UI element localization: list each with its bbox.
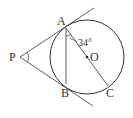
angle-label: 34°	[78, 37, 92, 48]
angle-arc-a	[66, 35, 71, 37]
label-p: P	[9, 50, 16, 64]
label-o: O	[90, 50, 99, 64]
label-a: A	[57, 14, 66, 28]
geometry-diagram: A P B C O 34°	[0, 0, 133, 118]
tangent-line-pb	[20, 57, 93, 106]
label-b: B	[61, 86, 69, 100]
angle-arc-p	[27, 52, 29, 62]
center-dot-o	[86, 56, 89, 59]
label-c: C	[106, 86, 114, 100]
